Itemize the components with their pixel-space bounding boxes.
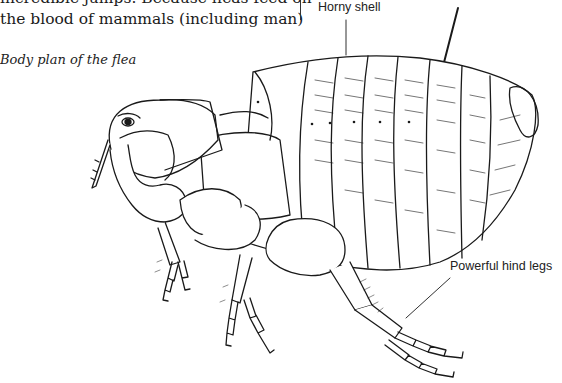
label-powerful-hind-legs: Powerful hind legs [450, 259, 552, 273]
label-horny-shell: Horny shell [318, 0, 381, 14]
leader-line-legs [406, 278, 450, 318]
flea-illustration [0, 0, 562, 383]
